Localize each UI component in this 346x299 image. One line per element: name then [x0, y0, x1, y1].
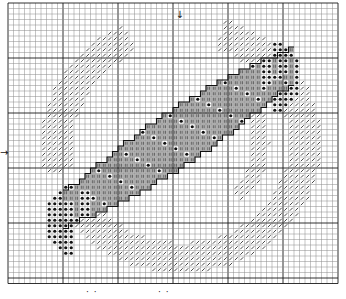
center-arrow-right-icon: →	[0, 148, 8, 158]
caption-mark-left: · ·	[86, 287, 98, 297]
stitch-chart	[0, 0, 346, 299]
chart-caption: · · · ·	[0, 287, 346, 299]
caption-mark-right: · ·	[158, 287, 170, 297]
center-arrow-down-icon: ↓	[176, 10, 184, 20]
